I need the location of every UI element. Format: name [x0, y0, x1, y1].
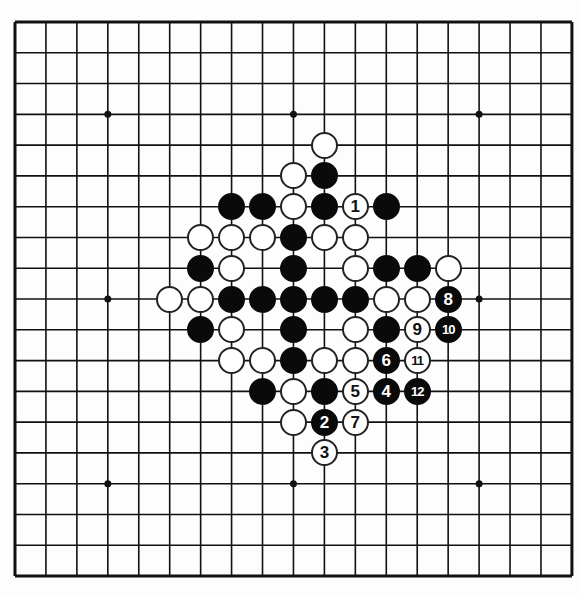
white-stone[interactable] — [311, 347, 338, 374]
black-stone[interactable] — [311, 286, 338, 313]
star-point-icon — [476, 296, 483, 303]
white-stone[interactable] — [156, 286, 183, 313]
white-stone[interactable] — [280, 193, 307, 220]
black-stone[interactable] — [404, 255, 431, 282]
star-point-icon — [290, 480, 297, 487]
black-stone[interactable] — [373, 193, 400, 220]
white-stone[interactable] — [280, 409, 307, 436]
white-stone[interactable] — [218, 347, 245, 374]
move-number-label: 3 — [320, 444, 329, 461]
black-stone[interactable] — [373, 316, 400, 343]
star-point-icon — [104, 111, 111, 118]
move-number-label: 12 — [411, 385, 423, 398]
move-number-label: 7 — [351, 414, 360, 431]
star-point-icon — [476, 111, 483, 118]
white-stone[interactable] — [373, 286, 400, 313]
star-point-icon — [476, 480, 483, 487]
black-stone[interactable] — [187, 255, 214, 282]
black-stone[interactable] — [249, 286, 276, 313]
move-5-white-stone[interactable]: 5 — [342, 378, 369, 405]
move-12-black-stone[interactable]: 12 — [404, 378, 431, 405]
black-stone[interactable] — [280, 224, 307, 251]
white-stone[interactable] — [280, 378, 307, 405]
move-number-label: 5 — [351, 383, 360, 400]
black-stone[interactable] — [249, 378, 276, 405]
white-stone[interactable] — [187, 224, 214, 251]
move-10-black-stone[interactable]: 10 — [435, 316, 462, 343]
move-9-white-stone[interactable]: 9 — [404, 316, 431, 343]
star-point-icon — [290, 111, 297, 118]
move-number-label: 11 — [411, 354, 423, 367]
move-number-label: 10 — [442, 323, 454, 336]
white-stone[interactable] — [218, 224, 245, 251]
white-stone[interactable] — [311, 132, 338, 159]
white-stone[interactable] — [218, 255, 245, 282]
move-number-label: 9 — [412, 321, 421, 338]
white-stone[interactable] — [342, 316, 369, 343]
move-number-label: 1 — [351, 198, 360, 215]
white-stone[interactable] — [342, 347, 369, 374]
move-number-label: 2 — [320, 414, 329, 431]
black-stone[interactable] — [218, 286, 245, 313]
white-stone[interactable] — [435, 255, 462, 282]
black-stone[interactable] — [280, 255, 307, 282]
move-7-white-stone[interactable]: 7 — [342, 409, 369, 436]
white-stone[interactable] — [342, 255, 369, 282]
black-stone[interactable] — [373, 255, 400, 282]
star-point-icon — [104, 480, 111, 487]
black-stone[interactable] — [342, 286, 369, 313]
star-point-icon — [104, 296, 111, 303]
white-stone[interactable] — [311, 224, 338, 251]
move-1-white-stone[interactable]: 1 — [342, 193, 369, 220]
move-6-black-stone[interactable]: 6 — [373, 347, 400, 374]
move-4-black-stone[interactable]: 4 — [373, 378, 400, 405]
black-stone[interactable] — [280, 286, 307, 313]
move-11-white-stone[interactable]: 11 — [404, 347, 431, 374]
black-stone[interactable] — [311, 193, 338, 220]
move-number-label: 8 — [443, 291, 452, 308]
move-2-black-stone[interactable]: 2 — [311, 409, 338, 436]
white-stone[interactable] — [342, 224, 369, 251]
black-stone[interactable] — [311, 378, 338, 405]
move-number-label: 6 — [382, 352, 391, 369]
move-number-label: 4 — [382, 383, 391, 400]
white-stone[interactable] — [249, 224, 276, 251]
white-stone[interactable] — [187, 286, 214, 313]
black-stone[interactable] — [280, 347, 307, 374]
move-8-black-stone[interactable]: 8 — [435, 286, 462, 313]
black-stone[interactable] — [249, 193, 276, 220]
white-stone[interactable] — [249, 347, 276, 374]
white-stone[interactable] — [404, 286, 431, 313]
